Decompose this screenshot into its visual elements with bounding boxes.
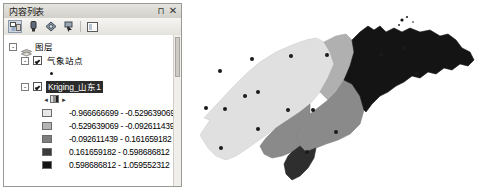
layer-tree[interactable]: - 图层 - 气象站点 - [4,35,173,186]
right-arrow-icon: ► [61,97,67,103]
close-icon[interactable]: ✕ [168,6,178,16]
panel-title-bar[interactable]: 内容列表 ⊓ ✕ [4,4,181,19]
legend-swatch [42,135,52,143]
legend-swatch [42,109,52,117]
expander-icon[interactable]: - [21,57,29,65]
panel-title: 内容列表 [9,5,44,18]
vertical-scrollbar[interactable] [173,35,181,186]
list-by-selection-icon[interactable] [62,20,76,33]
kriging-interpolation-map [188,0,477,190]
tree-root-label: 图层 [35,41,53,53]
map-canvas[interactable] [188,0,477,190]
options-icon[interactable] [85,20,99,33]
island [398,24,400,26]
list-by-drawing-order-icon[interactable] [8,20,22,33]
legend-swatch [42,148,52,156]
legend-range-label: 0.598686812 - 1.059552312 [69,159,170,171]
toc-toolbar [4,18,181,36]
legend-swatch [42,161,52,169]
zone-class-5 [344,26,474,112]
legend-range-label: -0.966666699 - -0.529639069 [69,107,173,119]
layers-group-icon [21,43,32,51]
island [406,16,408,18]
island [400,18,403,21]
pin-icon[interactable]: ⊓ [156,6,166,16]
layer-visibility-checkbox[interactable] [33,56,42,65]
legend-range-label: -0.092611439 - 0.161659182 [69,133,172,145]
application-window: 内容列表 ⊓ ✕ [0,0,477,190]
layer-label: Kriging_山东1 [46,81,103,93]
toolbar-separator [80,21,81,32]
legend-swatch [42,122,52,130]
list-by-visibility-icon[interactable] [44,20,58,33]
layer-visibility-checkbox[interactable] [33,82,42,91]
expander-icon[interactable]: - [21,83,29,91]
point-symbol-icon [50,72,53,75]
table-of-contents-panel: 内容列表 ⊓ ✕ [3,3,182,187]
list-by-source-icon[interactable] [26,20,40,33]
legend-range-label: -0.529639069 - -0.092611439 [69,120,173,132]
legend-range-label: 0.161659182 - 0.598686812 [69,146,170,158]
expander-icon[interactable]: - [9,43,17,51]
scrollbar-thumb[interactable] [175,37,180,77]
island [412,21,414,23]
raster-ramp-icon [50,95,59,103]
layer-label: 气象站点 [47,55,83,67]
left-arrow-icon: ◄ [43,97,49,103]
